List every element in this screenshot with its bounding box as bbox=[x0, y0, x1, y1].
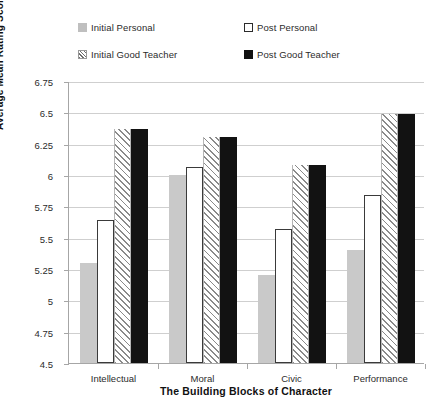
plot-area: 6.756.56.2565.755.55.2554.754.5 Intellec… bbox=[68, 82, 424, 364]
x-category-label-moral: Moral bbox=[191, 373, 215, 384]
bar-post-good-teacher bbox=[309, 165, 326, 363]
bar-group bbox=[69, 82, 158, 363]
y-tick-label: 6.75 bbox=[13, 77, 53, 88]
bar-post-personal bbox=[364, 195, 381, 363]
bar-initial-personal bbox=[258, 275, 275, 363]
x-tick-mark bbox=[158, 364, 159, 369]
y-axis-title: Average Mean Rating Score bbox=[0, 0, 5, 130]
x-category-label-intellectual: Intellectual bbox=[91, 373, 136, 384]
bar-post-personal bbox=[97, 220, 114, 363]
plot-wrapper: Average Mean Rating Score 6.756.56.2565.… bbox=[0, 0, 434, 419]
bar-chart: Initial Personal Post Personal Initial G… bbox=[0, 0, 434, 419]
y-tick-label: 6.25 bbox=[13, 139, 53, 150]
bar-post-personal bbox=[186, 167, 203, 363]
bar-initial-good-teacher bbox=[292, 165, 309, 363]
y-tick-label: 4.75 bbox=[13, 327, 53, 338]
bar-group bbox=[247, 82, 336, 363]
bar-post-good-teacher bbox=[398, 114, 415, 363]
bar-group bbox=[158, 82, 247, 363]
bar-initial-personal bbox=[169, 175, 186, 363]
x-tick-mark bbox=[336, 364, 337, 369]
x-axis-title: The Building Blocks of Character bbox=[68, 385, 424, 397]
y-tick-label: 6.5 bbox=[13, 108, 53, 119]
y-tick-label: 5.5 bbox=[13, 233, 53, 244]
bar-initial-personal bbox=[80, 263, 97, 363]
bar-post-personal bbox=[275, 229, 292, 363]
y-tick-label: 5.75 bbox=[13, 202, 53, 213]
bar-initial-personal bbox=[347, 250, 364, 363]
bar-initial-good-teacher bbox=[203, 137, 220, 363]
bar-initial-good-teacher bbox=[114, 129, 131, 363]
y-tick-mark bbox=[64, 364, 69, 365]
bar-post-good-teacher bbox=[220, 137, 237, 363]
x-tick-mark bbox=[425, 364, 426, 369]
bars-layer bbox=[69, 82, 424, 363]
x-category-label-civic: Civic bbox=[281, 373, 302, 384]
bar-initial-good-teacher bbox=[381, 114, 398, 363]
y-tick-label: 5.25 bbox=[13, 265, 53, 276]
y-tick-label: 6 bbox=[13, 171, 53, 182]
x-tick-mark bbox=[247, 364, 248, 369]
bar-group bbox=[336, 82, 425, 363]
x-category-label-performance: Performance bbox=[353, 373, 407, 384]
y-tick-label: 4.5 bbox=[13, 359, 53, 370]
y-tick-label: 5 bbox=[13, 296, 53, 307]
bar-post-good-teacher bbox=[131, 129, 148, 363]
